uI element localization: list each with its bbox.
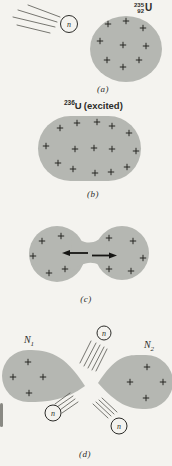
neutron-a-label: n: [67, 20, 71, 29]
diagram-svg: [0, 0, 172, 466]
neutron-bottom-left-label: n: [51, 409, 55, 418]
fragment-n2-label: N2: [144, 339, 154, 353]
panel-c-caption: (c): [80, 294, 92, 304]
scan-edge-artifact: [0, 403, 3, 427]
panel-b-caption: (b): [87, 189, 99, 199]
fragment-subscript: 2: [151, 345, 155, 353]
fragment-subscript: 1: [31, 340, 35, 348]
nucleus-u235: [90, 16, 162, 82]
excited-state-label: (excited): [84, 100, 123, 111]
neutron-top-label: n: [102, 329, 106, 338]
atomic-number: 92: [137, 9, 144, 15]
fragment-n1-label: N1: [24, 334, 34, 348]
fragment-symbol: N: [144, 339, 151, 350]
element-symbol: U: [145, 2, 152, 13]
panel-a-caption: (a): [97, 84, 109, 94]
neutron-top-motion-lines: [80, 341, 107, 371]
neutron-a-motion-lines: [13, 5, 60, 33]
neutron-bottom-right-label: n: [117, 422, 121, 431]
mass-number: 236: [64, 99, 75, 106]
isotope-label-u235: 235 92 U: [134, 2, 152, 14]
panel-d-caption: (d): [79, 449, 91, 459]
panel-a-graphics: [13, 5, 162, 82]
fragment-symbol: N: [24, 334, 31, 345]
element-symbol: U: [75, 100, 82, 111]
isotope-label-u236: 236U(excited): [64, 99, 123, 111]
neutron-bottom-right-motion-lines: [93, 398, 117, 418]
panel-b-graphics: [38, 116, 141, 181]
panel-c-graphics: [29, 226, 149, 282]
fission-figure-canvas: 235 92 U n (a) 236U(excited) (b) (c) N1 …: [0, 0, 172, 466]
nucleus-u236-excited: [38, 116, 141, 181]
